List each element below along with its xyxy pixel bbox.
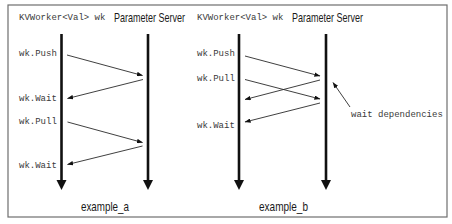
example-a-worker-header: KVWorker<Val> wk: [19, 13, 105, 23]
example-b-call-wait: wk.Wait: [197, 121, 235, 131]
example-a-call-pull: wk.Pull: [19, 117, 57, 127]
example-a-server-header: Parameter Server: [114, 10, 185, 25]
example-a-call-wait-1: wk.Wait: [19, 94, 57, 104]
wait-dependencies-annotation: wait dependencies: [351, 110, 443, 120]
sequence-diagram: KVWorker<Val> wk Parameter Server wk.Pus…: [0, 0, 452, 224]
example-b-worker-header: KVWorker<Val> wk: [197, 13, 283, 23]
example-b-call-pull: wk.Pull: [197, 74, 235, 84]
example-b-server-header: Parameter Server: [292, 10, 363, 25]
example-a-caption: example_a: [81, 199, 130, 214]
example-b-caption: example_b: [259, 199, 308, 214]
example-a-call-wait-2: wk.Wait: [19, 161, 57, 171]
example-b-call-push: wk.Push: [197, 49, 235, 59]
example-a-call-push: wk.Push: [19, 49, 57, 59]
